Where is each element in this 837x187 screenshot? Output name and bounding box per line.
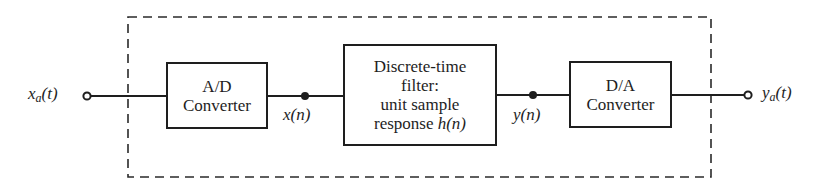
filter-line-3: unit sample: [381, 95, 460, 114]
input-signal-label: xa(t): [28, 85, 58, 105]
xn-node-icon: [301, 92, 309, 100]
output-signal-label: ya(t): [762, 84, 792, 104]
filter-line-4: response h(n): [374, 114, 466, 133]
output-terminal-icon: [744, 91, 751, 98]
output-arg: (t): [776, 83, 792, 102]
xn-label: x(n): [283, 106, 310, 125]
filter-line-1: Discrete-time: [374, 57, 467, 76]
input-arg: (t): [42, 84, 58, 103]
ad-line-2: Converter: [183, 96, 251, 115]
input-terminal-icon: [83, 92, 90, 99]
yn-label: y(n): [513, 106, 540, 125]
da-converter-label: D/A Converter: [570, 62, 671, 127]
output-var: y: [762, 83, 770, 102]
ad-converter-label: A/D Converter: [167, 63, 267, 128]
da-line-1: D/A: [606, 76, 635, 95]
filter-impulse-response: h(n): [438, 114, 466, 133]
yn-node-icon: [529, 91, 537, 99]
input-var: x: [28, 84, 36, 103]
da-line-2: Converter: [587, 95, 655, 114]
filter-label: Discrete-time filter: unit sample respon…: [344, 45, 496, 145]
filter-line-2: filter:: [401, 76, 439, 95]
ad-line-1: A/D: [202, 77, 231, 96]
filter-line-4-text: response: [374, 114, 433, 133]
